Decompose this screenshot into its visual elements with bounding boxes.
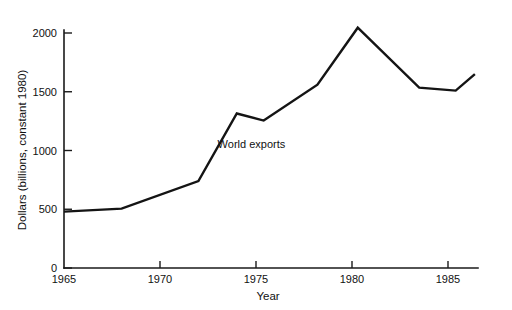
x-axis-tick-labels: 19651970197519801985	[52, 273, 460, 285]
x-tick-label: 1980	[340, 273, 364, 285]
y-axis-tick-labels: 0500100015002000	[33, 27, 57, 274]
y-axis-ticks	[64, 33, 72, 268]
chart-annotations: World exports	[218, 138, 286, 150]
x-tick-label: 1970	[148, 273, 172, 285]
x-tick-label: 1965	[52, 273, 76, 285]
data-series-group	[64, 28, 475, 212]
y-tick-label: 1000	[33, 145, 57, 157]
chart-figure: 0500100015002000 19651970197519801985 Do…	[0, 0, 512, 310]
series-line-world-exports	[64, 28, 475, 212]
x-tick-label: 1985	[436, 273, 460, 285]
x-tick-label: 1975	[244, 273, 268, 285]
y-tick-label: 2000	[33, 27, 57, 39]
x-axis-ticks	[160, 261, 448, 268]
y-tick-label: 1500	[33, 86, 57, 98]
series-label-world-exports: World exports	[218, 138, 286, 150]
y-axis-title: Dollars (billions, constant 1980)	[16, 70, 28, 231]
line-chart: 0500100015002000 19651970197519801985 Do…	[0, 0, 512, 310]
x-axis-title: Year	[256, 290, 279, 302]
y-tick-label: 500	[39, 203, 57, 215]
